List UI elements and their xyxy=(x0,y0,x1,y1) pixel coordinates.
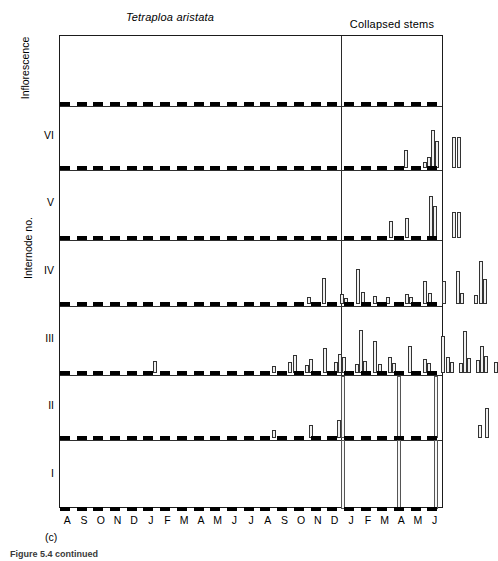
bar xyxy=(474,295,478,304)
panel-separator xyxy=(60,106,442,107)
x-tick-label: O xyxy=(93,514,109,526)
bar xyxy=(457,137,461,168)
panel-separator xyxy=(60,306,442,307)
bar xyxy=(484,356,488,373)
panel-separator xyxy=(60,240,442,241)
bar xyxy=(341,376,345,438)
x-tick-label: A xyxy=(59,514,75,526)
x-tick-label: J xyxy=(226,514,242,526)
bar xyxy=(434,440,438,509)
bar xyxy=(323,348,327,373)
bar xyxy=(483,279,487,304)
x-tick-label: S xyxy=(76,514,92,526)
x-tick-label: M xyxy=(176,514,192,526)
panel-label-v: V xyxy=(26,196,54,208)
x-tick-label: O xyxy=(293,514,309,526)
bar xyxy=(485,408,489,438)
x-tick-label: A xyxy=(393,514,409,526)
x-tick-label: N xyxy=(109,514,125,526)
panel-letter: (c) xyxy=(45,531,57,543)
bar xyxy=(397,440,401,509)
panel-separator xyxy=(60,170,442,171)
y-axis-label: Internode no. xyxy=(22,168,34,328)
species-title: Tetraploa aristata xyxy=(0,11,340,23)
bar xyxy=(408,346,412,373)
bar xyxy=(373,341,377,373)
x-tick-label: M xyxy=(410,514,426,526)
bar xyxy=(434,376,438,438)
plot-area: InflorescenceVIVIVIIIIII xyxy=(59,35,443,508)
x-axis: ASONDJFMAMJJASONDJFMAMJ xyxy=(59,508,443,534)
x-tick-label: F xyxy=(360,514,376,526)
bar xyxy=(435,141,439,168)
panel-label-vi: VI xyxy=(26,129,54,141)
bar xyxy=(478,425,482,438)
bar xyxy=(356,269,360,304)
x-tick-label: S xyxy=(276,514,292,526)
bar xyxy=(460,293,464,304)
x-tick-label: M xyxy=(377,514,393,526)
bar xyxy=(467,358,471,373)
panel-separator xyxy=(60,440,442,441)
x-tick-label: D xyxy=(126,514,142,526)
bar xyxy=(441,336,445,373)
x-tick-label: J xyxy=(427,514,443,526)
bar xyxy=(423,281,427,304)
bar xyxy=(457,212,461,238)
bar xyxy=(405,218,409,238)
x-tick-label: J xyxy=(243,514,259,526)
collapsed-stems-title: Collapsed stems xyxy=(340,18,444,30)
x-tick-label: A xyxy=(260,514,276,526)
bar xyxy=(397,376,401,438)
bar xyxy=(494,362,498,373)
panel-separator xyxy=(60,375,442,376)
x-tick-label: A xyxy=(193,514,209,526)
panel-label-iv: IV xyxy=(26,264,54,276)
bar xyxy=(433,206,437,238)
x-tick-label: M xyxy=(210,514,226,526)
x-tick-label: F xyxy=(160,514,176,526)
panel-label-inflorescence: Inflorescence xyxy=(19,8,31,128)
bar xyxy=(341,440,345,509)
panel-label-ii: II xyxy=(26,399,54,411)
panel-label-i: I xyxy=(26,467,54,479)
figure-caption: Figure 5.4 continued xyxy=(10,549,98,559)
bar xyxy=(450,362,454,373)
bar xyxy=(442,281,446,304)
bar xyxy=(322,278,326,304)
x-tick-label: N xyxy=(310,514,326,526)
x-tick-label: J xyxy=(143,514,159,526)
bar xyxy=(452,137,456,168)
panel-label-iii: III xyxy=(26,332,54,344)
x-tick-label: J xyxy=(343,514,359,526)
x-tick-label: D xyxy=(326,514,342,526)
bar xyxy=(452,212,456,238)
